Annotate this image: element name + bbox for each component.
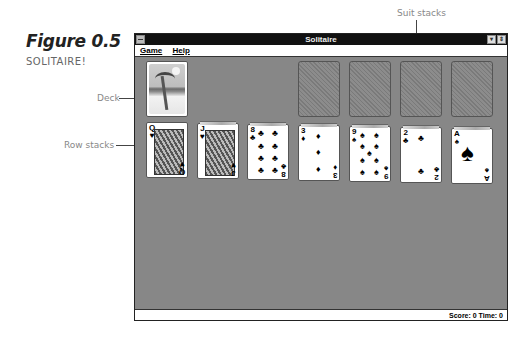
suit-stack-2[interactable] bbox=[349, 61, 391, 117]
card-rank: 3♦ bbox=[333, 163, 337, 179]
callout-row-stacks: Row stacks bbox=[64, 140, 114, 150]
solitaire-window: Solitaire ▾ ⇕ Game Help Q♥ Q♥ J♥ J♥ bbox=[134, 33, 508, 321]
game-table: Q♥ Q♥ J♥ J♥ 8♣ ♣ ♣ ♣ ♣ ♣ ♣ ♣ ♣ 8♣ 3♦ ♦ bbox=[135, 57, 507, 310]
minimize-button[interactable]: ▾ bbox=[487, 35, 496, 44]
club-icon: ♣ bbox=[272, 166, 278, 175]
diamond-icon: ♦ bbox=[316, 165, 321, 174]
row-stack-5-nine-spades[interactable]: 9♠ ♠ ♠ ♠ ♠ ♠ ♠ ♠ ♠ ♠ 9♠ bbox=[349, 126, 391, 182]
menu-help[interactable]: Help bbox=[172, 46, 189, 55]
spade-icon: ♠ bbox=[360, 156, 365, 165]
suit-stack-1[interactable] bbox=[298, 61, 340, 117]
card-back-beach-icon bbox=[149, 64, 185, 114]
figure-title: Figure 0.5 bbox=[26, 31, 121, 51]
deck-pile[interactable] bbox=[146, 61, 188, 117]
spade-icon: ♠ bbox=[360, 168, 365, 177]
card-rank: 2♣ bbox=[434, 165, 439, 181]
row-stack-1-queen-hearts[interactable]: Q♥ Q♥ bbox=[146, 122, 188, 178]
status-bar: Score: 0 Time: 0 bbox=[135, 309, 507, 320]
card-rank: A♠ bbox=[484, 166, 490, 182]
row-stack-3-eight-clubs[interactable]: 8♣ ♣ ♣ ♣ ♣ ♣ ♣ ♣ ♣ 8♣ bbox=[247, 124, 289, 180]
title-bar[interactable]: Solitaire ▾ ⇕ bbox=[135, 34, 507, 45]
card-rank: J♥ bbox=[231, 161, 236, 177]
card-rank: 8♣ bbox=[281, 162, 286, 178]
large-spade-icon: ♠ bbox=[461, 141, 474, 165]
club-icon: ♣ bbox=[272, 129, 278, 138]
club-icon: ♣ bbox=[258, 166, 264, 175]
card-rank: 9♠ bbox=[352, 128, 356, 144]
row-stack-6-two-clubs[interactable]: 2♣ ♣ ♣ 2♣ bbox=[400, 127, 442, 183]
spade-icon: ♠ bbox=[360, 131, 365, 140]
card-rank: 2♣ bbox=[403, 129, 408, 145]
club-icon: ♣ bbox=[258, 154, 264, 163]
card-rank: 8♣ bbox=[250, 126, 255, 142]
club-icon: ♣ bbox=[418, 134, 424, 143]
club-icon: ♣ bbox=[258, 142, 264, 151]
spade-icon: ♠ bbox=[360, 142, 365, 151]
spade-icon: ♠ bbox=[374, 168, 379, 177]
spade-icon: ♠ bbox=[374, 142, 379, 151]
score-time: Score: 0 Time: 0 bbox=[449, 312, 503, 319]
club-icon: ♣ bbox=[272, 154, 278, 163]
suit-stack-4[interactable] bbox=[451, 61, 493, 117]
suit-stack-3[interactable] bbox=[400, 61, 442, 117]
club-icon: ♣ bbox=[272, 142, 278, 151]
diamond-icon: ♦ bbox=[316, 148, 321, 157]
card-rank: A♠ bbox=[454, 130, 460, 146]
spade-icon: ♠ bbox=[374, 156, 379, 165]
row-stack-7-ace-spades[interactable]: A♠ ♠ A♠ bbox=[451, 128, 493, 184]
menu-bar: Game Help bbox=[135, 45, 507, 57]
row-stack-4-three-diamonds[interactable]: 3♦ ♦ ♦ ♦ 3♦ bbox=[298, 125, 340, 181]
card-rank: Q♥ bbox=[179, 160, 185, 176]
club-icon: ♣ bbox=[258, 129, 264, 138]
maximize-button[interactable]: ⇕ bbox=[497, 35, 506, 44]
window-title: Solitaire bbox=[305, 35, 337, 44]
card-rank: 9♠ bbox=[384, 164, 388, 180]
callout-deck: Deck bbox=[97, 93, 120, 103]
spade-icon: ♠ bbox=[367, 149, 372, 158]
row-stack-2-jack-hearts[interactable]: J♥ J♥ bbox=[197, 123, 239, 179]
system-menu-button[interactable] bbox=[136, 35, 145, 44]
diamond-icon: ♦ bbox=[316, 132, 321, 141]
menu-game[interactable]: Game bbox=[140, 46, 162, 55]
callout-suit-stacks: Suit stacks bbox=[397, 8, 446, 18]
card-rank: 3♦ bbox=[301, 127, 305, 143]
figure-subtitle: SOLITAIRE! bbox=[26, 56, 86, 67]
spade-icon: ♠ bbox=[374, 131, 379, 140]
club-icon: ♣ bbox=[418, 167, 424, 176]
